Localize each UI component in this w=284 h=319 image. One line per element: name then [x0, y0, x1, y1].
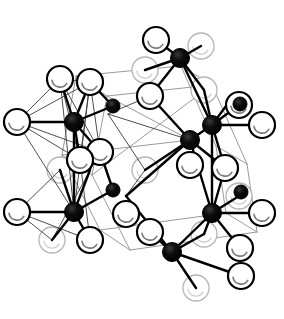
open-sphere [249, 112, 275, 138]
open-sphere [77, 227, 103, 253]
open-sphere [228, 263, 254, 289]
small-metal-sphere [106, 99, 120, 113]
open-sphere [212, 155, 238, 181]
metal-sphere [181, 131, 200, 150]
crystal-structure-diagram [0, 0, 284, 319]
thin-bond [108, 114, 145, 170]
open-sphere [67, 147, 93, 173]
open-sphere [113, 201, 139, 227]
open-sphere [77, 69, 103, 95]
metal-sphere [171, 49, 190, 68]
open-sphere [137, 219, 163, 245]
cell-edge [100, 230, 130, 250]
open-sphere [137, 83, 163, 109]
metal-sphere [203, 116, 222, 135]
metal-sphere [65, 203, 84, 222]
open-sphere [4, 199, 30, 225]
metal-sphere [203, 204, 222, 223]
small-metal-sphere [106, 183, 120, 197]
open-sphere [177, 152, 203, 178]
small-metal-sphere [234, 185, 248, 199]
small-metal-sphere [233, 97, 247, 111]
open-sphere [4, 109, 30, 135]
metal-sphere [65, 113, 84, 132]
open-sphere [143, 27, 169, 53]
open-sphere [227, 235, 253, 261]
open-sphere [249, 200, 275, 226]
open-sphere [47, 66, 73, 92]
crystal-structure-figure [0, 0, 284, 319]
metal-sphere [163, 243, 182, 262]
